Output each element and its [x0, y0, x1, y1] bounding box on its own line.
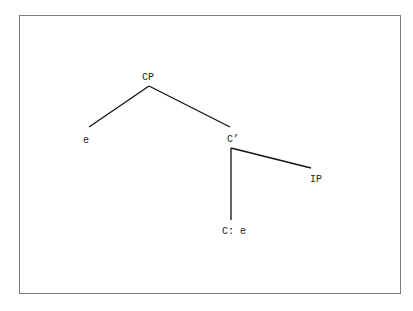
node-c-head: C: e [222, 227, 246, 237]
edge-cbar-ip [231, 148, 311, 168]
node-ip: IP [310, 175, 322, 185]
edge-cp-cbar [149, 86, 230, 127]
tree-edges [0, 0, 413, 311]
node-c-bar: C’ [227, 135, 239, 145]
node-spec-e: e [83, 136, 89, 146]
edge-cp-spec [89, 86, 149, 127]
node-cp: CP [142, 73, 154, 83]
